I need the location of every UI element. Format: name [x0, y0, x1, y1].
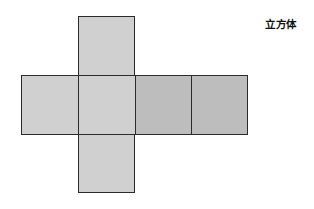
face-right: [135, 75, 192, 135]
face-bottom: [78, 134, 135, 193]
diagram-title: 立方体: [265, 16, 297, 31]
cube-net-diagram: [0, 0, 314, 209]
face-top: [78, 16, 135, 76]
face-back: [191, 75, 248, 135]
face-front: [78, 75, 136, 135]
face-left: [21, 75, 79, 135]
